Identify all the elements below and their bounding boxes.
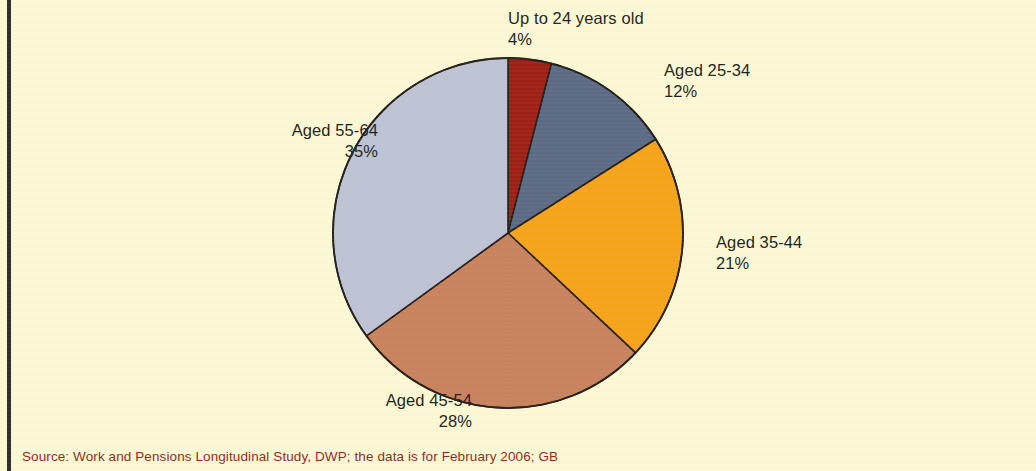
slice-label-aged-35-44: Aged 35-44 21%: [716, 232, 802, 274]
slice-label-up-to-24-name: Up to 24 years old: [508, 9, 644, 27]
slice-label-aged-35-44-name: Aged 35-44: [716, 233, 802, 251]
slice-label-aged-35-44-percent: 21%: [716, 253, 802, 274]
slice-label-aged-45-54-name: Aged 45-54: [386, 391, 472, 409]
slice-label-aged-55-64-name: Aged 55-64: [292, 121, 378, 139]
slice-label-aged-55-64: Aged 55-64 35%: [228, 120, 378, 162]
slice-label-aged-25-34-percent: 12%: [664, 81, 750, 102]
slice-label-aged-45-54: Aged 45-54 28%: [312, 390, 472, 432]
slice-label-up-to-24-percent: 4%: [508, 29, 644, 50]
pie-slice-group: [333, 58, 683, 408]
pie-chart-figure: Up to 24 years old 4% Aged 25-34 12% Age…: [0, 0, 1036, 471]
source-note: Source: Work and Pensions Longitudinal S…: [22, 449, 558, 465]
pie-chart: [0, 0, 1036, 471]
slice-label-aged-25-34-name: Aged 25-34: [664, 61, 750, 79]
slice-label-up-to-24: Up to 24 years old 4%: [508, 8, 644, 50]
slice-label-aged-45-54-percent: 28%: [312, 411, 472, 432]
slice-label-aged-25-34: Aged 25-34 12%: [664, 60, 750, 102]
slice-label-aged-55-64-percent: 35%: [228, 141, 378, 162]
